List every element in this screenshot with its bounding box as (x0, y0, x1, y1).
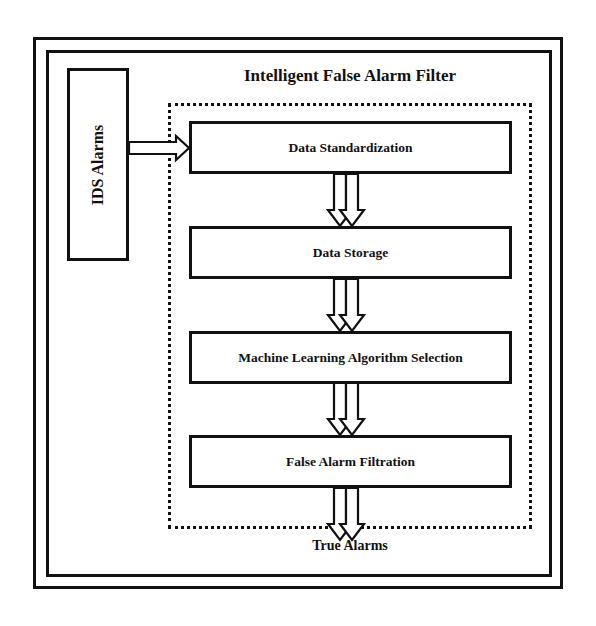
double-down-arrow-icon (328, 488, 364, 540)
double-down-arrow-icon (328, 383, 364, 435)
right-arrow-icon (129, 136, 189, 160)
double-down-arrow-icon (328, 174, 364, 226)
arrows-layer (0, 0, 596, 626)
double-down-arrow-icon (328, 279, 364, 331)
